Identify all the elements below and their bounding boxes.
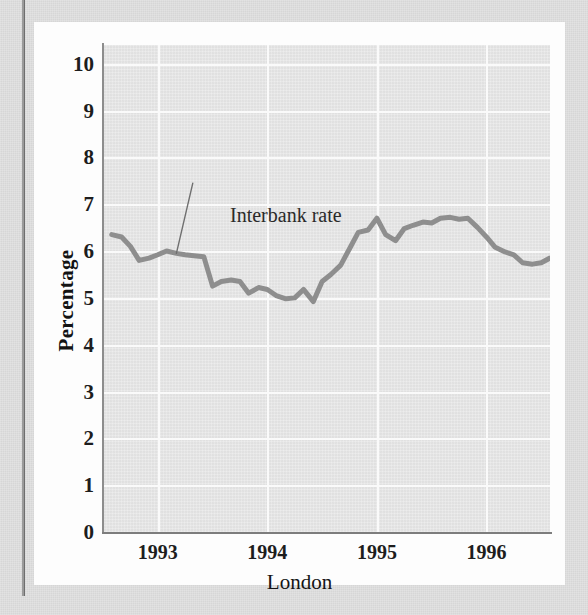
- y-tick-label: 1: [54, 475, 94, 496]
- figure-card: 012345678910 1993199419951996 Percentage…: [34, 22, 565, 585]
- line-chart: 012345678910 1993199419951996 Percentage…: [34, 22, 565, 585]
- x-tick-label: 1995: [357, 542, 397, 562]
- x-axis-line: [102, 532, 552, 534]
- y-axis-title: Percentage: [54, 201, 79, 401]
- y-axis-line: [102, 43, 104, 534]
- y-tick-label: 0: [54, 522, 94, 543]
- x-axis-title: London: [34, 570, 565, 595]
- y-tick-label: 10: [54, 53, 94, 74]
- x-tick-label: 1993: [138, 542, 178, 562]
- series-annotation-label: Interbank rate: [230, 204, 342, 227]
- plot-area: [103, 45, 550, 532]
- page-binding-edge-shadow: [24, 0, 25, 596]
- x-tick-label: 1996: [466, 542, 506, 562]
- annotation-leader-line: [103, 45, 550, 532]
- y-tick-label: 2: [54, 428, 94, 449]
- y-tick-label: 8: [54, 147, 94, 168]
- x-tick-label: 1994: [247, 542, 287, 562]
- y-tick-label: 9: [54, 100, 94, 121]
